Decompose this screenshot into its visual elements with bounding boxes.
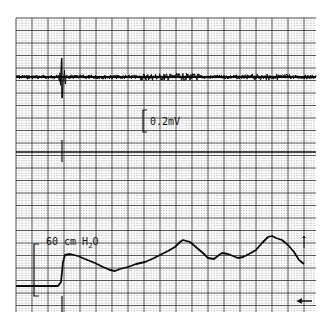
end-arrow-marker bbox=[298, 299, 312, 303]
pressure-label-main: 60 cm H bbox=[46, 236, 88, 247]
emg-scale-label: 0.2mV bbox=[150, 116, 180, 127]
emg-scale-bar bbox=[143, 110, 147, 132]
emg-pressure-chart: 0.2mV 60 cm H2O bbox=[0, 0, 330, 326]
right-tick-marker bbox=[303, 236, 306, 248]
pressure-label-suffix: O bbox=[92, 236, 98, 247]
